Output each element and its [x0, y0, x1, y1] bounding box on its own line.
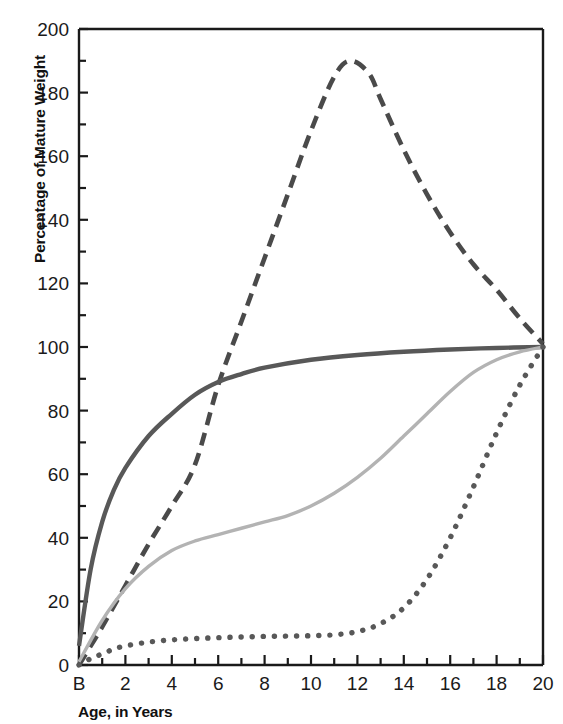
- axis-tick-labels: 020406080100120140160180200B246810121416…: [37, 19, 553, 694]
- plot-area: 020406080100120140160180200B246810121416…: [0, 0, 563, 724]
- y-tick-label: 0: [58, 655, 69, 676]
- x-tick-label: 20: [532, 673, 553, 694]
- x-tick-label: 6: [213, 673, 224, 694]
- x-tick-label: 2: [120, 673, 131, 694]
- series-line-neural: [79, 347, 543, 646]
- x-tick-label: 8: [259, 673, 270, 694]
- x-axis-label: Age, in Years: [78, 703, 172, 721]
- x-tick-label: B: [73, 673, 86, 694]
- series-line-general: [79, 347, 543, 662]
- x-tick-label: 4: [167, 673, 178, 694]
- y-tick-label: 20: [48, 591, 69, 612]
- y-tick-label: 40: [48, 528, 69, 549]
- growth-curves-chart: 020406080100120140160180200B246810121416…: [0, 0, 563, 724]
- data-series: [79, 61, 543, 665]
- y-tick-label: 100: [37, 337, 69, 358]
- x-tick-label: 14: [393, 673, 415, 694]
- y-tick-label: 80: [48, 401, 69, 422]
- y-tick-label: 60: [48, 464, 69, 485]
- series-line-lymphoid: [79, 61, 543, 665]
- x-tick-label: 10: [300, 673, 321, 694]
- y-axis-label: Percentage of Mature Weight: [31, 29, 49, 289]
- x-tick-label: 12: [347, 673, 368, 694]
- x-tick-label: 16: [440, 673, 461, 694]
- x-tick-label: 18: [486, 673, 507, 694]
